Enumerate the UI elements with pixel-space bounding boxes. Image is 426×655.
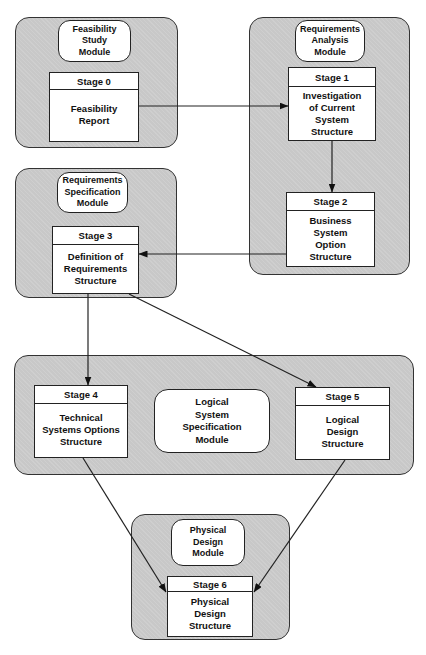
stage-0-body: Feasibility Report <box>50 90 138 140</box>
physical-module-label: Physical Design Module <box>171 519 245 566</box>
stage-5-box: Stage 5 Logical Design Structure <box>295 387 390 460</box>
stage-5-body: Logical Design Structure <box>296 406 389 458</box>
stage-4-box: Stage 4 Technical Systems Options Struct… <box>34 385 128 458</box>
stage-2-body: Business System Option Structure <box>287 211 374 266</box>
stage-0-box: Stage 0 Feasibility Report <box>49 72 139 142</box>
logical-module-label: Logical System Specification Module <box>154 389 270 453</box>
stage-0-header: Stage 0 <box>50 73 138 90</box>
feasibility-module-label: Feasibility Study Module <box>58 20 131 62</box>
stage-6-header: Stage 6 <box>168 577 252 592</box>
stage-4-header: Stage 4 <box>35 386 127 404</box>
stage-3-box: Stage 3 Definition of Requirements Struc… <box>52 226 139 294</box>
stage-6-body: Physical Design Structure <box>168 592 252 636</box>
req-spec-module-label: Requirements Specification Module <box>57 172 128 213</box>
stage-5-header: Stage 5 <box>296 388 389 406</box>
stage-2-header: Stage 2 <box>287 193 374 211</box>
stage-2-box: Stage 2 Business System Option Structure <box>286 192 375 267</box>
stage-1-header: Stage 1 <box>289 68 375 87</box>
stage-1-box: Stage 1 Investigation of Current System … <box>288 67 376 141</box>
stage-1-body: Investigation of Current System Structur… <box>289 87 375 140</box>
stage-3-body: Definition of Requirements Structure <box>53 245 138 293</box>
stage-6-box: Stage 6 Physical Design Structure <box>167 576 253 637</box>
req-analysis-module-label: Requirements Analysis Module <box>295 20 365 62</box>
stage-3-header: Stage 3 <box>53 227 138 245</box>
stage-4-body: Technical Systems Options Structure <box>35 404 127 456</box>
